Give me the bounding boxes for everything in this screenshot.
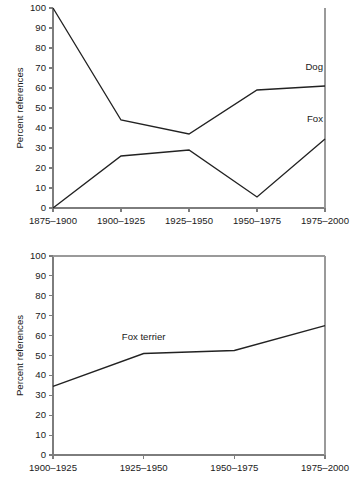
x-tick-label: 1925–1950: [120, 462, 168, 473]
chart-percent-references-dog-fox: 01020304050607080901001875–19001900–1925…: [0, 0, 357, 244]
x-tick-label: 1875–1900: [29, 215, 77, 226]
x-tick-label: 1900–1925: [29, 462, 77, 473]
y-tick-label: 80: [35, 290, 46, 301]
series-label-dog: Dog: [305, 61, 323, 72]
y-tick-label: 10: [35, 182, 46, 193]
top-chart-canvas: 01020304050607080901001875–19001900–1925…: [0, 0, 357, 244]
y-tick-label: 60: [35, 82, 46, 93]
y-tick-label: 100: [30, 250, 46, 261]
y-tick-label: 30: [35, 389, 46, 400]
y-tick-label: 100: [30, 2, 46, 13]
y-tick-label: 50: [35, 102, 46, 113]
y-axis-title: Percent references: [14, 67, 25, 148]
y-axis-title: Percent references: [14, 315, 25, 396]
chart-percent-references-fox-terrier: 01020304050607080901001900–19251925–1950…: [0, 244, 357, 487]
bottom-chart-canvas: 01020304050607080901001900–19251925–1950…: [0, 244, 357, 487]
series-line-fox: [53, 139, 325, 208]
y-tick-label: 20: [35, 162, 46, 173]
x-tick-label: 1975–2000: [301, 215, 349, 226]
x-tick-label: 1950–1975: [233, 215, 281, 226]
y-tick-label: 40: [35, 369, 46, 380]
y-tick-label: 50: [35, 350, 46, 361]
y-tick-label: 70: [35, 62, 46, 73]
x-tick-label: 1900–1925: [97, 215, 145, 226]
x-tick-label: 1975–2000: [301, 462, 349, 473]
y-tick-label: 0: [41, 449, 46, 460]
y-tick-label: 80: [35, 42, 46, 53]
series-label-fox: Fox: [307, 113, 323, 124]
x-tick-label: 1950–1975: [210, 462, 258, 473]
y-tick-label: 90: [35, 270, 46, 281]
series-line-dog: [53, 8, 325, 134]
y-tick-label: 30: [35, 142, 46, 153]
x-tick-label: 1925–1950: [165, 215, 213, 226]
series-label-fox-terrier: Fox terrier: [122, 331, 167, 342]
y-tick-label: 40: [35, 122, 46, 133]
y-tick-label: 0: [41, 202, 46, 213]
y-tick-label: 70: [35, 310, 46, 321]
y-tick-label: 90: [35, 22, 46, 33]
series-line-fox-terrier: [53, 326, 325, 387]
y-tick-label: 20: [35, 409, 46, 420]
y-tick-label: 10: [35, 429, 46, 440]
y-tick-label: 60: [35, 330, 46, 341]
